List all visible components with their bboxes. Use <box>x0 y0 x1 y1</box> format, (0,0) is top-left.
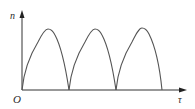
arch-1 <box>22 29 69 90</box>
x-axis-arrow-icon <box>179 88 187 93</box>
diagram-canvas: n O τ <box>0 0 195 109</box>
x-axis-label: τ <box>178 94 182 105</box>
y-axis-label: n <box>10 10 15 21</box>
y-axis-arrow-icon <box>20 10 25 18</box>
origin-label: O <box>13 93 21 105</box>
periodic-curve <box>22 28 162 90</box>
arch-3 <box>116 28 162 90</box>
arch-2 <box>69 29 116 90</box>
